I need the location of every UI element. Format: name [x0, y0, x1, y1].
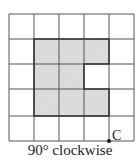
caption: 90° clockwise	[0, 142, 140, 159]
shaded-shape	[34, 39, 109, 116]
